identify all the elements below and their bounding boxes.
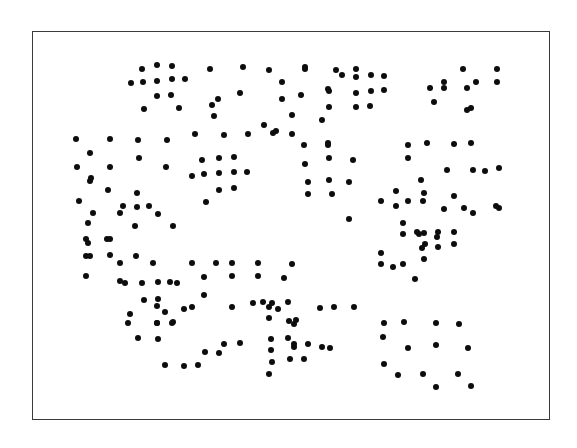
figure-root <box>0 0 577 448</box>
scatter-point <box>468 383 475 390</box>
scatter-point <box>201 274 208 281</box>
scatter-point <box>305 341 312 348</box>
scatter-point <box>281 275 288 282</box>
scatter-point <box>368 72 375 79</box>
scatter-point <box>401 319 408 326</box>
scatter-point <box>326 88 333 95</box>
scatter-point <box>400 231 407 238</box>
scatter-point <box>381 87 388 94</box>
scatter-point <box>494 79 501 86</box>
scatter-point <box>87 150 94 157</box>
scatter-point <box>181 306 188 313</box>
scatter-point <box>418 177 425 184</box>
scatter-point <box>87 178 94 185</box>
scatter-point <box>269 300 276 307</box>
scatter-point <box>240 64 247 71</box>
scatter-point <box>199 157 206 164</box>
scatter-point <box>464 107 471 114</box>
scatter-point <box>451 141 458 148</box>
scatter-point <box>468 140 475 147</box>
scatter-point <box>125 320 132 327</box>
scatter-point <box>231 169 238 176</box>
scatter-point <box>298 92 305 99</box>
scatter-point <box>346 179 353 186</box>
scatter-point <box>325 142 332 149</box>
scatter-point <box>378 261 385 268</box>
scatter-point <box>405 345 412 352</box>
scatter-point <box>107 236 114 243</box>
scatter-point <box>140 79 147 86</box>
scatter-point <box>141 297 148 304</box>
scatter-point <box>427 85 434 92</box>
scatter-point <box>275 306 282 313</box>
scatter-point <box>127 311 134 318</box>
scatter-point <box>216 155 223 162</box>
scatter-point <box>482 168 489 175</box>
scatter-point <box>433 320 440 327</box>
scatter-point <box>395 372 402 379</box>
scatter-point <box>431 99 438 106</box>
scatter-point <box>231 154 238 161</box>
scatter-point <box>289 261 296 268</box>
scatter-point <box>381 73 388 80</box>
scatter-point <box>189 260 196 267</box>
scatter-point <box>301 142 308 149</box>
scatter-point <box>90 210 97 217</box>
scatter-point <box>331 304 338 311</box>
scatter-point <box>162 309 169 316</box>
scatter-point <box>189 304 196 311</box>
scatter-point <box>261 122 268 129</box>
scatter-point <box>381 361 388 368</box>
scatter-point <box>400 220 407 227</box>
scatter-point <box>301 356 308 363</box>
scatter-point <box>215 96 222 103</box>
scatter-point <box>368 88 375 95</box>
scatter-point <box>285 335 292 342</box>
scatter-point <box>353 74 360 81</box>
scatter-point <box>201 292 208 299</box>
scatter-point <box>333 67 340 74</box>
scatter-point <box>329 191 336 198</box>
scatter-point <box>378 250 385 257</box>
scatter-point <box>244 169 251 176</box>
scatter-point <box>455 371 462 378</box>
scatter-point <box>169 76 176 83</box>
scatter-point <box>346 216 353 223</box>
scatter-point <box>221 341 228 348</box>
scatter-point <box>353 66 360 73</box>
scatter-point <box>317 305 324 312</box>
scatter-point <box>139 66 146 73</box>
scatter-point <box>285 299 292 306</box>
scatter-point <box>433 384 440 391</box>
scatter-point <box>279 96 286 103</box>
scatter-point <box>134 190 141 197</box>
scatter-point <box>237 90 244 97</box>
scatter-point <box>133 253 140 260</box>
scatter-point <box>289 112 296 119</box>
scatter-point <box>393 188 400 195</box>
scatter-point <box>83 273 90 280</box>
scatter-point <box>464 85 471 92</box>
scatter-point <box>213 260 220 267</box>
scatter-point <box>255 260 262 267</box>
scatter-point <box>405 155 412 162</box>
scatter-point <box>216 187 223 194</box>
scatter-point <box>132 223 139 230</box>
scatter-point <box>420 198 427 205</box>
scatter-point <box>250 300 257 307</box>
scatter-point <box>339 72 346 79</box>
scatter-point <box>451 229 458 236</box>
scatter-point <box>435 244 442 251</box>
scatter-point <box>154 93 161 100</box>
scatter-point <box>326 155 333 162</box>
scatter-point <box>192 131 199 138</box>
scatter-point <box>496 165 503 172</box>
scatter-point <box>470 167 477 174</box>
scatter-point <box>202 349 209 356</box>
scatter-point <box>163 164 170 171</box>
scatter-point <box>419 245 426 252</box>
scatter-point <box>181 363 188 370</box>
scatter-point <box>231 185 238 192</box>
scatter-point <box>155 211 162 218</box>
scatter-point <box>164 137 171 144</box>
